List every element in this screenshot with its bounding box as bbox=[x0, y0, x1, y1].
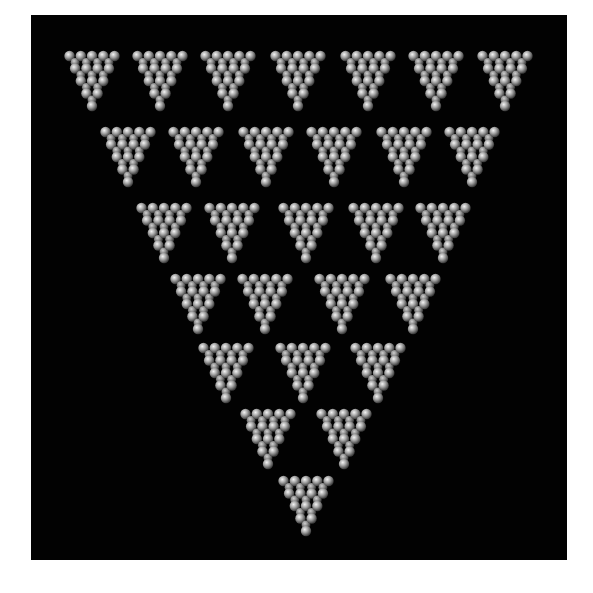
sphere-triangle bbox=[376, 127, 431, 187]
sphere-triangle bbox=[278, 203, 333, 263]
sphere-triangle bbox=[408, 51, 463, 111]
sphere-triangle bbox=[136, 203, 191, 263]
sphere-triangle bbox=[100, 127, 155, 187]
sphere-triangle bbox=[314, 274, 369, 334]
sphere-triangle bbox=[200, 51, 255, 111]
sphere-triangle bbox=[350, 343, 405, 403]
sphere-triangle bbox=[168, 127, 223, 187]
sphere-triangle bbox=[477, 51, 532, 111]
sphere-triangle bbox=[415, 203, 470, 263]
sphere-triangle bbox=[240, 409, 295, 469]
sphere-triangle bbox=[238, 127, 293, 187]
sphere-triangle bbox=[270, 51, 325, 111]
sphere-triangle bbox=[204, 203, 259, 263]
sphere-triangle bbox=[306, 127, 361, 187]
sphere-triangle bbox=[348, 203, 403, 263]
sphere-triangle bbox=[444, 127, 499, 187]
sphere-triangle bbox=[132, 51, 187, 111]
sphere-triangle bbox=[198, 343, 253, 403]
sphere-triangle bbox=[278, 476, 333, 536]
sphere-triangle bbox=[64, 51, 119, 111]
sphere-triangle bbox=[275, 343, 330, 403]
triangle-arrangement bbox=[0, 0, 593, 593]
sphere-triangle bbox=[340, 51, 395, 111]
sphere-triangle bbox=[237, 274, 292, 334]
sphere-triangle bbox=[385, 274, 440, 334]
sphere-triangle bbox=[316, 409, 371, 469]
sphere-triangle bbox=[170, 274, 225, 334]
